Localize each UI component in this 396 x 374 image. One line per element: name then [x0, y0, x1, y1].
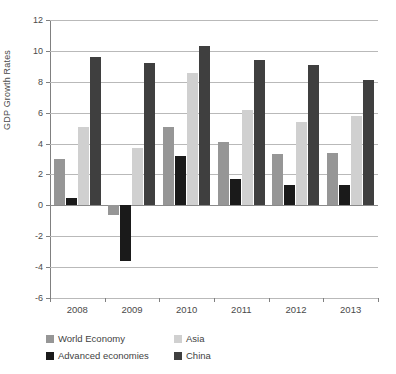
- x-tick-mark: [378, 298, 379, 302]
- legend-swatch-icon: [174, 352, 182, 360]
- bar: [175, 156, 186, 205]
- y-tick-label: 0: [38, 200, 43, 210]
- legend-item[interactable]: Asia: [174, 333, 294, 344]
- bar: [296, 122, 307, 205]
- y-tick-label: 4: [38, 139, 43, 149]
- bar: [187, 73, 198, 206]
- y-tick-label: 12: [33, 15, 43, 25]
- x-tick-label: 2008: [67, 304, 88, 315]
- legend-swatch-icon: [174, 335, 182, 343]
- chart-legend: World EconomyAsiaAdvanced economiesChina: [46, 330, 376, 364]
- legend-swatch-icon: [46, 335, 54, 343]
- bar: [120, 205, 131, 261]
- x-tick-label: 2012: [285, 304, 306, 315]
- x-tick-label: 2010: [176, 304, 197, 315]
- bar: [272, 154, 283, 205]
- bar-group: [269, 20, 324, 298]
- bar: [66, 198, 77, 206]
- legend-label: China: [186, 350, 211, 361]
- bar: [199, 46, 210, 205]
- bar: [90, 57, 101, 205]
- x-tick-mark: [50, 298, 51, 302]
- legend-item[interactable]: Advanced economies: [46, 350, 174, 361]
- x-tick-mark: [105, 298, 106, 302]
- gdp-growth-bar-chart: GDP Growth Rates 121086420-2-4-6 2008200…: [0, 0, 396, 374]
- x-tick-mark: [159, 298, 160, 302]
- bar-group: [105, 20, 160, 298]
- bar: [254, 60, 265, 205]
- legend-row: World EconomyAsia: [46, 330, 376, 347]
- bar: [132, 148, 143, 205]
- bar: [363, 80, 374, 205]
- legend-item[interactable]: World Economy: [46, 333, 174, 344]
- y-tick-label: -6: [35, 293, 43, 303]
- legend-row: Advanced economiesChina: [46, 347, 376, 364]
- bars-layer: [50, 20, 378, 298]
- bar: [339, 185, 350, 205]
- legend-label: Asia: [186, 333, 204, 344]
- legend-item[interactable]: China: [174, 350, 294, 361]
- x-tick-mark: [323, 298, 324, 302]
- bar: [242, 110, 253, 206]
- y-axis-title: GDP Growth Rates: [2, 10, 12, 130]
- bar: [230, 179, 241, 205]
- bar: [308, 65, 319, 206]
- y-tick-label: -4: [35, 262, 43, 272]
- bar: [218, 142, 229, 205]
- legend-swatch-icon: [46, 352, 54, 360]
- bar: [144, 63, 155, 205]
- bar-group: [214, 20, 269, 298]
- bar: [284, 185, 295, 205]
- legend-label: Advanced economies: [58, 350, 149, 361]
- bar: [351, 116, 362, 206]
- y-tick-label: 8: [38, 77, 43, 87]
- x-tick-mark: [214, 298, 215, 302]
- y-tick-label: -2: [35, 231, 43, 241]
- y-tick-label: 10: [33, 46, 43, 56]
- bar-group: [159, 20, 214, 298]
- bar: [54, 159, 65, 205]
- y-tick-label: 2: [38, 169, 43, 179]
- y-tick-label: 6: [38, 108, 43, 118]
- x-tick-label: 2013: [340, 304, 361, 315]
- bar: [108, 205, 119, 214]
- bar-group: [323, 20, 378, 298]
- x-tick-mark: [269, 298, 270, 302]
- legend-label: World Economy: [58, 333, 125, 344]
- x-tick-label: 2011: [231, 304, 251, 315]
- plot-area: 121086420-2-4-6 200820092010201120122013: [50, 20, 378, 298]
- bar: [163, 127, 174, 206]
- bar: [78, 127, 89, 206]
- bar: [327, 153, 338, 206]
- bar-group: [50, 20, 105, 298]
- x-tick-label: 2009: [121, 304, 142, 315]
